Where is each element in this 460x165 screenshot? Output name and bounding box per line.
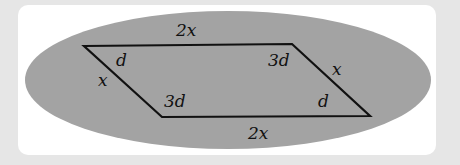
label-bottom-right-angle: d bbox=[318, 91, 329, 111]
label-top-right-angle: 3d bbox=[268, 50, 290, 70]
background-ellipse bbox=[25, 11, 431, 149]
label-right-side: x bbox=[332, 59, 342, 79]
label-top-left-angle: d bbox=[116, 50, 127, 70]
label-top-side: 2x bbox=[175, 20, 197, 40]
label-bottom-left-angle: 3d bbox=[164, 91, 186, 111]
label-bottom-side: 2x bbox=[247, 123, 269, 143]
label-left-side: x bbox=[98, 70, 108, 90]
parallelogram-diagram: 2x 2x x x d 3d 3d d bbox=[0, 0, 460, 165]
